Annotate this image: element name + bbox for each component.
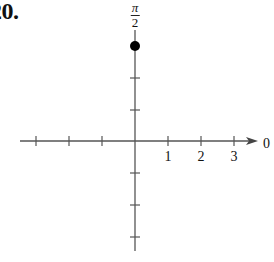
x-tick-label-3: 3: [231, 150, 238, 164]
polar-plot: [0, 0, 274, 262]
angle-label-pi-over-2: π 2: [131, 2, 140, 29]
plotted-point: [130, 41, 140, 51]
x-tick-label-1: 1: [165, 150, 172, 164]
polar-axis-label: 0: [263, 136, 270, 152]
x-tick-label-2: 2: [198, 150, 205, 164]
